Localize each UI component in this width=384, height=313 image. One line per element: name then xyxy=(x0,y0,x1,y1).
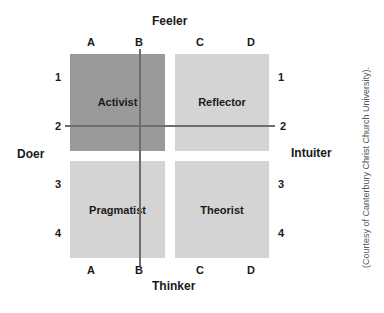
reflector-quadrant: Reflector xyxy=(175,54,269,151)
activist-label: Activist xyxy=(70,96,165,108)
horizontal-axis-line xyxy=(65,125,275,127)
row-tick-2-left: 2 xyxy=(51,120,65,132)
col-tick-b-top: B xyxy=(132,36,146,48)
col-tick-c-top: C xyxy=(193,36,207,48)
activist-quadrant: Activist xyxy=(70,54,165,151)
col-tick-a-top: A xyxy=(84,36,98,48)
theorist-label: Theorist xyxy=(175,204,269,216)
row-tick-4-left: 4 xyxy=(51,227,65,239)
row-tick-2-right: 2 xyxy=(276,120,290,132)
row-tick-4-right: 4 xyxy=(274,227,288,239)
feeler-label: Feeler xyxy=(152,14,187,28)
intuiter-label: Intuiter xyxy=(291,146,332,160)
col-tick-c-bottom: C xyxy=(193,264,207,276)
col-tick-a-bottom: A xyxy=(84,264,98,276)
row-tick-3-left: 3 xyxy=(51,178,65,190)
vertical-axis-line xyxy=(139,49,141,266)
theorist-quadrant: Theorist xyxy=(175,161,269,258)
doer-label: Doer xyxy=(17,147,44,161)
col-tick-d-top: D xyxy=(244,36,258,48)
thinker-label: Thinker xyxy=(152,279,195,293)
row-tick-1-left: 1 xyxy=(51,71,65,83)
row-tick-3-right: 3 xyxy=(274,178,288,190)
reflector-label: Reflector xyxy=(175,96,269,108)
credit-text: (Courtesy of Canterbury Christ Church Un… xyxy=(361,67,371,268)
row-tick-1-right: 1 xyxy=(274,71,288,83)
pragmatist-label: Pragmatist xyxy=(70,204,165,216)
col-tick-d-bottom: D xyxy=(244,264,258,276)
pragmatist-quadrant: Pragmatist xyxy=(70,161,165,258)
